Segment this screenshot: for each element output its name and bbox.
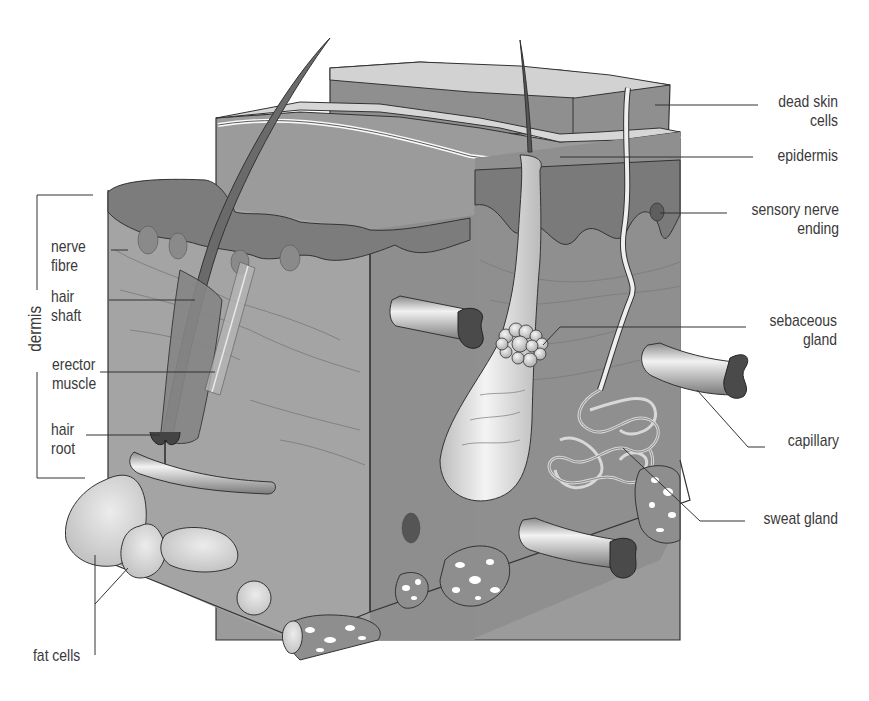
label-epidermis: epidermis: [723, 146, 838, 165]
label-line: shaft: [51, 306, 81, 325]
label-line: sweat gland: [723, 509, 838, 528]
label-sweat-gland: sweat gland: [723, 509, 838, 528]
label-line: sebaceous: [722, 311, 837, 330]
label-line: hair: [51, 287, 81, 306]
label-line: cells: [723, 111, 838, 130]
label-line: erector: [52, 355, 96, 374]
label-line: root: [51, 439, 75, 458]
label-line: muscle: [52, 374, 96, 393]
label-sebaceous-gland: sebaceous gland: [722, 311, 837, 349]
label-line: dead skin: [723, 92, 838, 111]
label-line: fibre: [51, 256, 86, 275]
label-fat-cells: fat cells: [33, 646, 80, 665]
label-nerve-fibre: nerve fibre: [51, 237, 86, 275]
label-line: fat cells: [33, 646, 80, 665]
label-capillary: capillary: [724, 431, 839, 450]
label-sensory-nerve-ending: sensory nerve ending: [708, 200, 839, 238]
label-line: hair: [51, 420, 75, 439]
label-dermis: dermis: [25, 309, 46, 352]
label-erector-muscle: erector muscle: [52, 355, 96, 393]
label-line: nerve: [51, 237, 86, 256]
label-line: sensory nerve: [708, 200, 839, 219]
label-hair-root: hair root: [51, 420, 75, 458]
label-dead-skin-cells: dead skin cells: [723, 92, 838, 130]
label-line: ending: [708, 219, 839, 238]
label-line: epidermis: [723, 146, 838, 165]
label-hair-shaft: hair shaft: [51, 287, 81, 325]
dark-spot: [402, 513, 420, 543]
label-line: capillary: [724, 431, 839, 450]
label-line: gland: [722, 330, 837, 349]
